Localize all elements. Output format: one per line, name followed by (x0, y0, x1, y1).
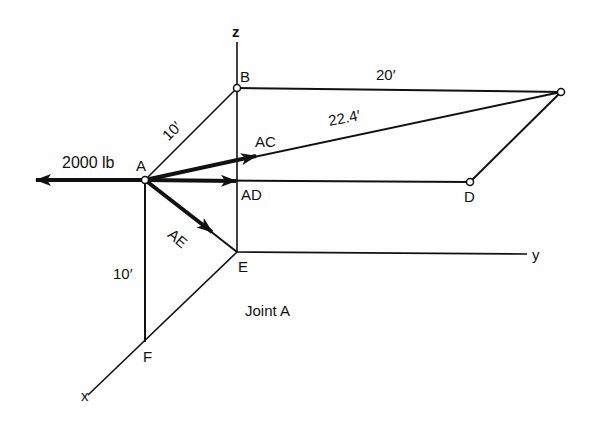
applied-force-label: 2000 lb (62, 155, 115, 171)
y-axis (237, 252, 527, 254)
joint-C (558, 89, 565, 96)
truss-diagram: z y x B A D E F 2000 lb AC AD AE 10′ 20′… (0, 0, 592, 428)
point-B-label: B (240, 69, 250, 84)
member-AB (145, 88, 237, 180)
z-axis-label: z (232, 24, 240, 39)
force-AC-label: AC (255, 134, 276, 149)
joint-D (467, 179, 474, 186)
force-AE-arrow (145, 180, 212, 232)
point-F-label: F (143, 349, 152, 364)
force-AC-arrow (145, 156, 256, 180)
point-A-label: A (136, 158, 146, 173)
y-axis-label: y (532, 247, 540, 262)
member-BC (237, 88, 561, 92)
x-axis (88, 252, 237, 395)
point-E-label: E (238, 259, 248, 274)
joint-B (234, 85, 241, 92)
dimension-BC: 20′ (376, 67, 396, 82)
point-D-label: D (464, 189, 475, 204)
force-AD-arrow (145, 180, 236, 181)
diagram-lines (0, 0, 592, 428)
member-CD (470, 92, 561, 182)
figure-caption: Joint A (245, 303, 290, 318)
force-AD-label: AD (241, 187, 262, 202)
x-axis-label: x (81, 388, 89, 403)
joint-A (142, 177, 149, 184)
dimension-AF: 10′ (113, 266, 133, 281)
